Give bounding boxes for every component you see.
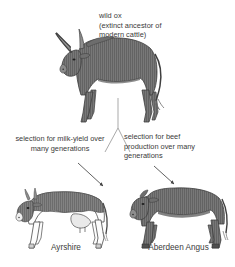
aberdeen-angus-figure <box>130 188 228 248</box>
caption-aberdeen-angus: Aberdeen Angus <box>126 243 231 253</box>
label-beef-production-selection: selection for beef production over many … <box>124 132 224 161</box>
label-wild-ox: wild ox (extinct ancestor of modern catt… <box>99 11 214 40</box>
ayrshire-figure <box>16 188 108 248</box>
caption-ayrshire: Ayrshire <box>11 243 121 253</box>
selection-arrows <box>78 163 174 186</box>
wild-ox-figure <box>56 29 164 122</box>
label-milk-yield-selection: selection for milk-yield over many gener… <box>2 134 118 153</box>
cattle-selective-breeding-diagram: wild ox (extinct ancestor of modern catt… <box>0 0 235 267</box>
